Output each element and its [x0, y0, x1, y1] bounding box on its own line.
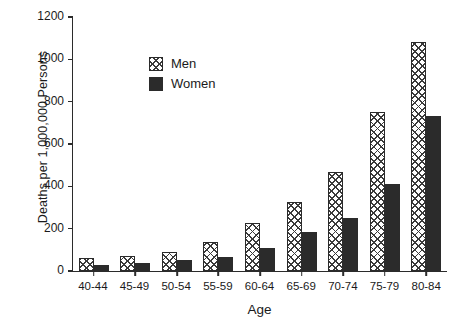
bar-women-60-64[interactable]: [260, 248, 275, 271]
bar-group: [281, 18, 323, 271]
x-axis-tick-mark: [259, 271, 261, 276]
bar-men-45-49[interactable]: [120, 256, 135, 271]
y-axis-tick-label: 400: [44, 178, 64, 192]
x-axis-tick-mark: [425, 271, 427, 276]
bar-group: [322, 18, 364, 271]
legend-swatch-women: [149, 77, 163, 91]
y-axis-tick-label: 0: [57, 263, 64, 277]
bar-women-55-59[interactable]: [218, 257, 233, 271]
chart-legend: MenWomen: [149, 56, 216, 96]
legend-swatch-men: [149, 57, 163, 71]
y-axis-tick-label: 1000: [37, 51, 64, 65]
legend-item-women[interactable]: Women: [149, 76, 216, 91]
bar-women-75-79[interactable]: [385, 184, 400, 271]
bar-men-60-64[interactable]: [245, 223, 260, 271]
bar-group: [73, 18, 115, 271]
bar-women-40-44[interactable]: [94, 265, 109, 271]
x-axis-tick-mark: [384, 271, 386, 276]
bar-women-70-74[interactable]: [343, 218, 358, 271]
bar-men-40-44[interactable]: [79, 258, 94, 271]
x-axis-tick-labels: 40-4445-4950-5455-5960-6465-6970-7475-79…: [72, 280, 447, 292]
x-axis-tick-label: 50-54: [155, 280, 197, 292]
bar-men-75-79[interactable]: [370, 112, 385, 271]
legend-label: Men: [171, 56, 196, 71]
x-axis-tick-mark: [342, 271, 344, 276]
bar-women-65-69[interactable]: [302, 232, 317, 271]
legend-label: Women: [171, 76, 216, 91]
x-axis-tick-label: 75-79: [364, 280, 406, 292]
y-axis-tick-label: 800: [44, 94, 64, 108]
x-axis-tick-mark: [135, 271, 137, 276]
bar-group: [364, 18, 406, 271]
x-axis-tick-mark: [218, 271, 220, 276]
x-axis-tick-mark: [301, 271, 303, 276]
bar-women-50-54[interactable]: [177, 260, 192, 271]
x-axis-tick-label: 45-49: [114, 280, 156, 292]
x-axis-tick-label: 55-59: [197, 280, 239, 292]
bar-chart-figure: Deaths per 1,000,000 Persons 02004006008…: [0, 0, 461, 331]
bar-group: [239, 18, 281, 271]
y-axis-tick-label: 600: [44, 136, 64, 150]
bar-group: [406, 18, 448, 271]
x-axis-tick-label: 60-64: [239, 280, 281, 292]
bar-men-55-59[interactable]: [203, 242, 218, 271]
bar-men-70-74[interactable]: [328, 172, 343, 271]
x-axis-tick-label: 70-74: [322, 280, 364, 292]
y-axis-tick-label: 200: [44, 221, 64, 235]
x-axis-tick-label: 40-44: [72, 280, 114, 292]
bar-women-80-84[interactable]: [426, 116, 441, 271]
bar-men-50-54[interactable]: [162, 252, 177, 271]
bar-women-45-49[interactable]: [135, 263, 150, 271]
x-axis-tick-mark: [176, 271, 178, 276]
bar-groups: [73, 18, 447, 271]
x-axis-title: Age: [72, 302, 447, 317]
x-axis-tick-label: 80-84: [405, 280, 447, 292]
y-axis-tick-label: 1200: [37, 9, 64, 23]
x-axis-tick-mark: [93, 271, 95, 276]
x-axis-tick-label: 65-69: [280, 280, 322, 292]
plot-area: 020040060080010001200 MenWomen: [72, 18, 447, 272]
bar-men-65-69[interactable]: [287, 202, 302, 271]
legend-item-men[interactable]: Men: [149, 56, 216, 71]
bar-men-80-84[interactable]: [411, 42, 426, 271]
